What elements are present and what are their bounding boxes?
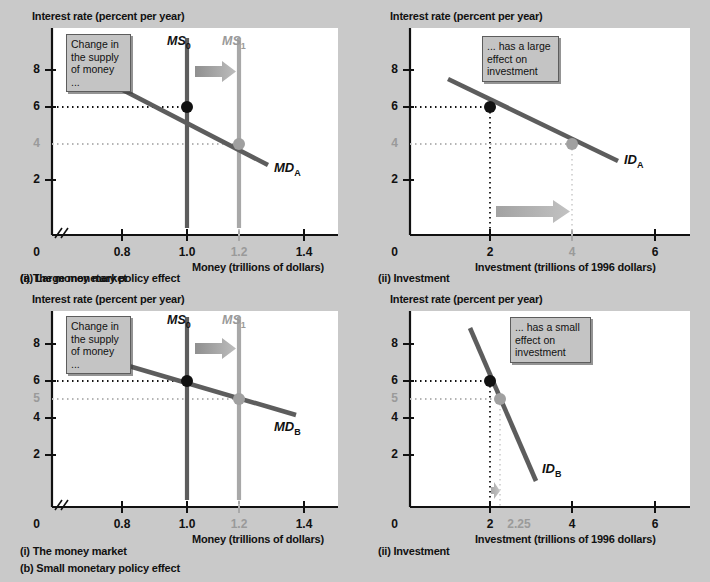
- md-a-text: MD: [274, 160, 294, 175]
- xtick-1-4: 1.4: [286, 245, 322, 259]
- x-axis-title: Money (trillions of dollars): [192, 533, 324, 545]
- ytick-4: 4: [22, 136, 40, 150]
- xtick-2-25: 2.25: [502, 517, 536, 531]
- origin-label: 0: [380, 245, 398, 259]
- ytick-2: 2: [380, 447, 398, 461]
- xtick-1-4: 1.4: [286, 517, 322, 531]
- panel-caption-roman: (ii) Investment: [378, 272, 450, 284]
- panel-caption-part-a: (a) Large monetary policy effect: [20, 272, 180, 284]
- xtick-1-0: 1.0: [169, 245, 205, 259]
- xtick-2: 2: [478, 517, 502, 531]
- ytick-2: 2: [22, 447, 40, 461]
- xtick-1-0: 1.0: [169, 517, 205, 531]
- id-a-label: IDA: [624, 152, 644, 170]
- x-axis-title: Investment (trillions of 1996 dollars): [475, 261, 656, 273]
- xtick-2: 2: [472, 245, 508, 259]
- ms1-text: MS: [222, 34, 241, 48]
- xtick-1-2: 1.2: [221, 245, 257, 259]
- panel-a-investment: Interest rate (percent per year): [360, 0, 710, 290]
- md-b-sub: B: [294, 427, 301, 437]
- ytick-8: 8: [380, 62, 398, 76]
- md-a-sub: A: [294, 168, 301, 178]
- ms1-label: MS1: [222, 313, 246, 330]
- ms0-sub: 0: [186, 320, 191, 330]
- ytick-8: 8: [22, 62, 40, 76]
- ytick-5: 5: [22, 391, 40, 405]
- ytick-8: 8: [380, 336, 398, 350]
- xtick-4: 4: [554, 245, 590, 259]
- figure-monetary-policy-effects: Interest rate (percent per year): [0, 0, 710, 582]
- xtick-1-2: 1.2: [221, 517, 257, 531]
- ms0-sub: 0: [186, 41, 191, 51]
- ms1-sub: 1: [241, 320, 246, 330]
- x-axis-title: Investment (trillions of 1996 dollars): [475, 533, 656, 545]
- md-a-label: MDA: [274, 160, 301, 178]
- origin-label: 0: [22, 245, 40, 259]
- id-b-text: ID: [542, 461, 555, 476]
- ms0-label: MS0: [167, 313, 191, 330]
- ytick-6: 6: [380, 99, 398, 113]
- md-b-text: MD: [274, 419, 294, 434]
- ms0-text: MS: [167, 313, 186, 327]
- x-axis-title: Money (trillions of dollars): [192, 261, 324, 273]
- panel-caption-part: (b) Small monetary policy effect: [20, 562, 180, 574]
- id-b-sub: B: [555, 469, 562, 479]
- ytick-6: 6: [22, 373, 40, 387]
- callout-change-supply: Change in the supply of money ...: [66, 316, 131, 374]
- id-a-sub: A: [637, 160, 644, 170]
- ytick-2: 2: [22, 172, 40, 186]
- panel-a-money-market: Interest rate (percent per year): [0, 0, 360, 290]
- ytick-6: 6: [22, 99, 40, 113]
- ytick-2: 2: [380, 172, 398, 186]
- ms0-label: MS0: [167, 34, 191, 51]
- xtick-0-8: 0.8: [104, 245, 140, 259]
- ytick-5: 5: [380, 391, 398, 405]
- id-a-text: ID: [624, 152, 637, 167]
- id-b-label: IDB: [542, 461, 562, 479]
- panel-b-money-market: Interest rate (percent per year): [0, 285, 360, 582]
- ytick-6: 6: [380, 373, 398, 387]
- panel-caption-roman: (ii) Investment: [378, 545, 450, 557]
- ms1-label: MS1: [222, 34, 246, 51]
- origin-label: 0: [22, 517, 40, 531]
- md-b-label: MDB: [274, 419, 301, 437]
- ytick-8: 8: [22, 336, 40, 350]
- ytick-4: 4: [380, 410, 398, 424]
- xtick-6: 6: [637, 245, 673, 259]
- ms0-text: MS: [167, 34, 186, 48]
- xtick-0-8: 0.8: [104, 517, 140, 531]
- panel-b-investment: Interest rate (percent per year): [360, 285, 710, 582]
- xtick-6: 6: [637, 517, 673, 531]
- ms1-text: MS: [222, 313, 241, 327]
- ytick-4: 4: [22, 410, 40, 424]
- ms1-sub: 1: [241, 41, 246, 51]
- callout-change-supply: Change in the supply of money ...: [66, 34, 131, 92]
- callout-small-effect: ... has a small effect on investment: [510, 317, 591, 363]
- xtick-4: 4: [554, 517, 590, 531]
- callout-large-effect: ... has a large effect on investment: [482, 36, 559, 82]
- panel-caption-roman: (i) The money market: [20, 545, 127, 557]
- ytick-4: 4: [380, 136, 398, 150]
- origin-label: 0: [380, 517, 398, 531]
